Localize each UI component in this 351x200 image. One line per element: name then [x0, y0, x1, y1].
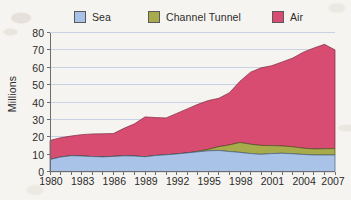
x-tick-1983: 1983: [71, 175, 94, 187]
y-tick-30: 30: [18, 115, 44, 126]
x-tick-1989: 1989: [134, 175, 157, 187]
legend-item-channel-tunnel[interactable]: Channel Tunnel: [148, 11, 241, 23]
y-axis-tick-marks: [47, 33, 50, 172]
legend-swatch-sea: [74, 11, 86, 23]
y-tick-70: 70: [18, 45, 44, 56]
chart-legend: Sea Channel Tunnel Air: [0, 7, 351, 27]
x-tick-2004: 2004: [292, 175, 315, 187]
legend-label-air: Air: [290, 11, 303, 23]
y-axis-tick-labels: 80 70 60 50 40 30 20 10 0: [14, 0, 44, 200]
legend-item-sea[interactable]: Sea: [74, 11, 111, 23]
legend-label-channel-tunnel: Channel Tunnel: [166, 11, 241, 23]
y-tick-40: 40: [18, 98, 44, 109]
x-axis-tick-labels: 1980 1983 1986 1989 1992 1995 1998 2001 …: [0, 175, 351, 197]
legend-swatch-air: [272, 11, 284, 23]
legend-swatch-channel-tunnel: [148, 11, 160, 23]
legend-item-air[interactable]: Air: [272, 11, 303, 23]
y-tick-20: 20: [18, 132, 44, 143]
x-tick-1992: 1992: [166, 175, 189, 187]
y-tick-10: 10: [18, 150, 44, 161]
legend-label-sea: Sea: [92, 11, 111, 23]
x-tick-2007: 2007: [321, 175, 344, 187]
x-tick-1986: 1986: [103, 175, 126, 187]
x-tick-1980: 1980: [39, 175, 62, 187]
x-tick-1998: 1998: [229, 175, 252, 187]
x-tick-2001: 2001: [261, 175, 284, 187]
y-tick-60: 60: [18, 63, 44, 74]
y-tick-80: 80: [18, 28, 44, 39]
area-chart: Sea Channel Tunnel Air Millions 80 70 60…: [0, 0, 351, 200]
plot-area: [0, 0, 351, 200]
x-tick-1995: 1995: [198, 175, 221, 187]
y-tick-50: 50: [18, 80, 44, 91]
